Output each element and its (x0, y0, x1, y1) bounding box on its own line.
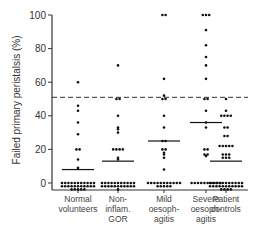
data-point (117, 185, 120, 188)
data-points (61, 14, 244, 191)
data-point (101, 182, 104, 185)
data-point (205, 78, 208, 81)
data-point (241, 182, 244, 185)
category-label: GOR (108, 214, 127, 224)
data-point (163, 78, 166, 81)
category-label: volunteers (58, 204, 97, 214)
data-point (77, 185, 80, 188)
data-point (164, 98, 167, 101)
data-point (203, 182, 206, 185)
data-point (126, 182, 129, 185)
data-point (107, 185, 110, 188)
data-point (117, 64, 120, 67)
y-tick-label: 80 (35, 43, 47, 54)
data-point (225, 153, 228, 156)
data-point (147, 182, 150, 185)
data-point (212, 182, 215, 185)
data-point (228, 153, 231, 156)
data-point (122, 148, 125, 151)
category-label: oesoph- (149, 204, 180, 214)
data-point (77, 104, 80, 107)
y-tick-label: 60 (35, 77, 47, 88)
category-label: Mild (156, 194, 172, 204)
data-point (80, 182, 83, 185)
category-label: controls (211, 204, 241, 214)
data-point (234, 185, 237, 188)
data-point (203, 148, 206, 151)
data-point (208, 14, 211, 17)
data-point (130, 182, 133, 185)
data-point (241, 185, 244, 188)
data-point (61, 182, 64, 185)
category-label: agitis (154, 214, 174, 224)
data-point (160, 182, 163, 185)
data-point (163, 126, 166, 129)
data-point (126, 185, 129, 188)
data-point (117, 182, 120, 185)
data-point (238, 185, 241, 188)
data-point (83, 182, 86, 185)
data-point (161, 98, 164, 101)
data-point (215, 182, 218, 185)
data-point (225, 109, 228, 112)
data-point (90, 182, 93, 185)
data-point (203, 98, 206, 101)
data-point (205, 44, 208, 47)
data-point (67, 185, 70, 188)
data-point (225, 157, 228, 160)
data-point (120, 185, 123, 188)
data-point (209, 182, 212, 185)
data-point (163, 94, 166, 97)
data-point (117, 115, 120, 118)
data-point (223, 115, 226, 118)
data-point (223, 188, 226, 191)
data-point (130, 185, 133, 188)
data-point (74, 182, 77, 185)
data-point (225, 145, 228, 148)
data-point (74, 185, 77, 188)
data-point (101, 185, 104, 188)
data-point (172, 182, 175, 185)
data-point (223, 126, 226, 129)
data-point (90, 185, 93, 188)
data-point (234, 182, 237, 185)
data-point (194, 182, 197, 185)
data-point (222, 157, 225, 160)
data-point (206, 98, 209, 101)
data-point (225, 185, 228, 188)
data-point (231, 145, 234, 148)
data-point (225, 182, 228, 185)
data-point (228, 182, 231, 185)
data-point (222, 145, 225, 148)
category-label: agitis (196, 214, 216, 224)
data-point (93, 185, 96, 188)
data-point (226, 188, 229, 191)
data-point (163, 182, 166, 185)
data-point (202, 14, 205, 17)
data-point (160, 185, 163, 188)
data-point (117, 157, 120, 160)
data-point (166, 182, 169, 185)
data-point (133, 185, 136, 188)
data-point (163, 157, 166, 160)
data-point (133, 182, 136, 185)
data-point (164, 14, 167, 17)
data-point (118, 98, 121, 101)
data-point (163, 151, 166, 154)
data-point (197, 182, 200, 185)
data-point (77, 81, 80, 84)
data-point (212, 185, 215, 188)
data-point (161, 14, 164, 17)
data-point (156, 185, 159, 188)
median-lines (62, 123, 242, 170)
data-point (222, 185, 225, 188)
data-point (77, 121, 80, 124)
dot-plot-chart: 020406080100 NormalvolunteersNon-inflam.… (0, 0, 268, 236)
data-point (86, 185, 89, 188)
data-point (77, 133, 80, 136)
data-point (70, 188, 73, 191)
data-point (226, 115, 229, 118)
data-point (123, 182, 126, 185)
data-point (117, 188, 120, 191)
data-point (77, 182, 80, 185)
